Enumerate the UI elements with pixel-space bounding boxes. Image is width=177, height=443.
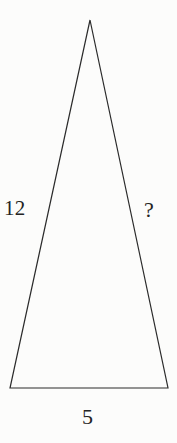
right-side-unknown-label: ? [144, 199, 154, 221]
base-length-label: 5 [82, 406, 93, 428]
left-side-length-label: 12 [4, 198, 25, 219]
figure-canvas: 12 ? 5 [0, 0, 177, 443]
